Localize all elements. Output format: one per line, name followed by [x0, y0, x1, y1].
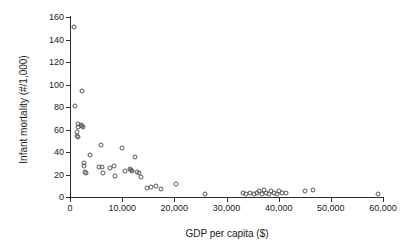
data-point: [100, 164, 105, 169]
x-tick-label: 30,000: [213, 203, 241, 214]
y-tick-label: 0: [38, 192, 64, 203]
plot-area: [70, 17, 383, 197]
data-point: [138, 174, 143, 179]
data-point: [111, 163, 116, 168]
data-point: [112, 173, 117, 178]
x-tick-mark: [70, 198, 71, 202]
x-tick-mark: [331, 198, 332, 202]
data-point: [72, 103, 77, 108]
data-point: [98, 143, 103, 148]
data-point: [158, 187, 163, 192]
y-tick-label: 80: [38, 102, 64, 113]
data-point: [82, 163, 87, 168]
y-tick-label: 140: [38, 34, 64, 45]
data-point: [119, 145, 124, 150]
data-point: [133, 154, 138, 159]
x-tick-label: 0: [67, 203, 72, 214]
x-tick-label: 20,000: [161, 203, 189, 214]
x-tick-mark: [174, 198, 175, 202]
y-tick-label: 20: [38, 169, 64, 180]
y-tick-label: 120: [38, 57, 64, 68]
x-axis-title: GDP per capita ($): [70, 228, 384, 239]
x-tick-label: 10,000: [108, 203, 136, 214]
scatter-chart-figure: GDP per capita ($) Infant mortality (#/1…: [0, 0, 414, 251]
y-tick-label: 100: [38, 79, 64, 90]
x-tick-label: 40,000: [265, 203, 293, 214]
data-point: [83, 171, 88, 176]
data-point: [75, 135, 80, 140]
y-tick-label: 40: [38, 147, 64, 158]
data-point: [101, 171, 106, 176]
x-tick-label: 50,000: [317, 203, 345, 214]
data-point: [303, 189, 308, 194]
x-tick-mark: [279, 198, 280, 202]
data-point: [72, 25, 77, 30]
data-point: [174, 181, 179, 186]
data-point: [375, 191, 380, 196]
data-point: [79, 89, 84, 94]
x-tick-mark: [227, 198, 228, 202]
y-tick-mark: [66, 197, 70, 198]
data-point: [283, 190, 288, 195]
x-tick-label: 60,000: [369, 203, 397, 214]
x-tick-mark: [383, 198, 384, 202]
y-axis-title: Infant mortality (#/1,000): [18, 25, 29, 195]
data-point: [311, 188, 316, 193]
x-tick-mark: [122, 198, 123, 202]
y-tick-label: 60: [38, 124, 64, 135]
data-point: [153, 183, 158, 188]
y-tick-label: 160: [38, 12, 64, 23]
data-point: [80, 125, 85, 130]
data-point: [203, 191, 208, 196]
data-point: [88, 153, 93, 158]
